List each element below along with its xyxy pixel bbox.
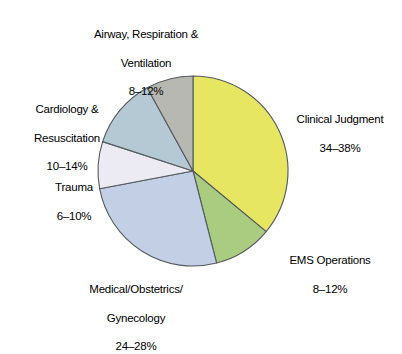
slice-label-medical-value: 24–28% (48, 339, 224, 353)
slice-label-ems-line1: EMS Operations (262, 253, 398, 267)
slice-label-airway-line2: Ventilation (62, 56, 230, 70)
slice-label-medical-line1: Medical/Obstetrics/ (48, 282, 224, 296)
slice-label-trauma-line1: Trauma (22, 180, 126, 194)
slice-label-trauma: Trauma 6–10% (22, 166, 126, 237)
slice-label-clinical: Clinical Judgment 34–38% (278, 98, 402, 169)
slice-label-airway-line1: Airway, Respiration & (62, 27, 230, 41)
slice-label-clinical-line1: Clinical Judgment (278, 112, 402, 126)
slice-label-ems-value: 8–12% (262, 282, 398, 296)
slice-label-cardiology-line2: Resuscitation (6, 131, 128, 145)
slice-label-trauma-value: 6–10% (22, 209, 126, 223)
slice-label-ems: EMS Operations 8–12% (262, 239, 398, 310)
slice-label-medical: Medical/Obstetrics/ Gynecology 24–28% (48, 268, 224, 354)
slice-label-cardiology-line1: Cardiology & (6, 102, 128, 116)
slice-label-medical-line2: Gynecology (48, 311, 224, 325)
slice-label-clinical-value: 34–38% (278, 141, 402, 155)
